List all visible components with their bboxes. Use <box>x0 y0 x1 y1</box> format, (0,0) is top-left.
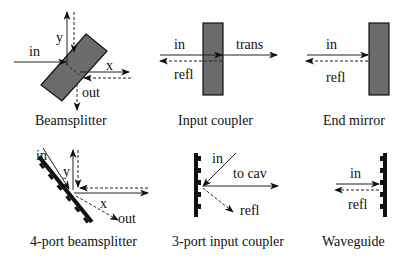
label-refl: refl <box>326 70 346 85</box>
grating-waveguide <box>380 153 387 217</box>
label-in: in <box>36 148 47 163</box>
label-out: out <box>118 211 136 226</box>
panel-beamsplitter: in y x out Beamsplitter <box>14 12 131 128</box>
panel-waveguide: in refl Waveguide <box>322 153 387 249</box>
label-trans: trans <box>236 37 263 52</box>
label-x: x <box>100 196 107 211</box>
optics-diagram: in y x out Beamsplitter in trans refl In… <box>0 0 405 261</box>
label-in: in <box>350 166 361 181</box>
label-in: in <box>212 151 223 166</box>
label-x: x <box>106 58 113 73</box>
panel-input-coupler: in trans refl Input coupler <box>160 23 277 128</box>
caption-beamsplitter: Beamsplitter <box>35 113 107 128</box>
label-out: out <box>82 85 100 100</box>
label-refl: refl <box>174 67 194 82</box>
panel-four-port-beamsplitter: in y x out 4-port beamsplitter <box>30 148 148 249</box>
label-y: y <box>56 30 63 45</box>
panel-three-port-input-coupler: in to cav refl 3-port input coupler <box>172 151 284 249</box>
grating-input-coupler <box>194 153 201 217</box>
label-to-cav: to cav <box>233 166 267 181</box>
label-in: in <box>326 37 337 52</box>
input-coupler-mirror <box>203 23 223 95</box>
refl-dashed-arrow <box>203 188 233 212</box>
caption-end-mirror: End mirror <box>323 113 385 128</box>
label-refl: refl <box>240 203 260 218</box>
end-mirror-block <box>369 23 389 95</box>
label-in: in <box>29 44 40 59</box>
caption-waveguide: Waveguide <box>322 234 385 249</box>
caption-input-coupler: Input coupler <box>178 113 253 128</box>
label-in: in <box>174 37 185 52</box>
label-refl: refl <box>348 197 368 212</box>
caption-three-port-input-coupler: 3-port input coupler <box>172 234 284 249</box>
caption-four-port-beamsplitter: 4-port beamsplitter <box>30 234 137 249</box>
panel-end-mirror: in refl End mirror <box>306 23 389 128</box>
label-y: y <box>63 164 70 179</box>
